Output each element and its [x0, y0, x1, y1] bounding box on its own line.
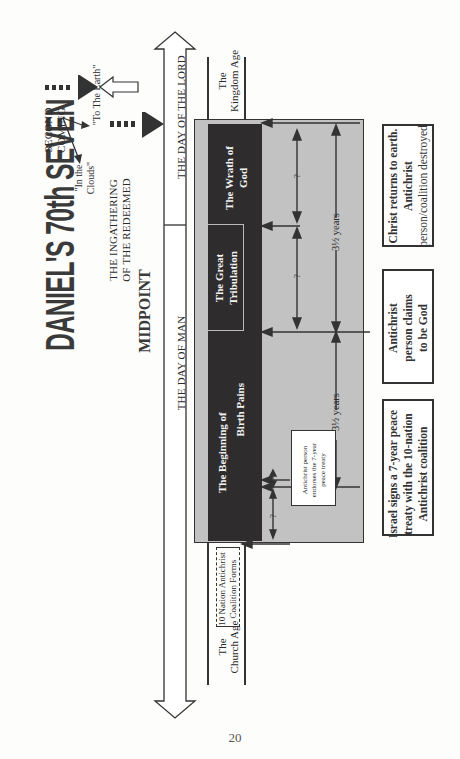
- ingathering-line2: OF THE REDEEMED: [120, 178, 133, 282]
- duration-second-half: 3½ years: [329, 202, 343, 262]
- israel-line1: Israel signs a 7-year peace: [386, 410, 401, 538]
- endorses-line2: endorses the 7-year: [310, 443, 319, 497]
- israel-signs-text: Israel signs a 7-year peace treaty with …: [384, 407, 432, 541]
- timeline-arrows-icon: [230, 110, 370, 670]
- endorses-line3: peace treaty: [319, 453, 328, 487]
- in-the-clouds-label: "In the Clouds": [72, 153, 98, 203]
- ingathering-label: THE INGATHERING OF THE REDEEMED: [105, 165, 135, 295]
- in-the-clouds-line2: Clouds": [85, 162, 97, 194]
- page-number: 20: [220, 730, 250, 746]
- kingdom-age-line1: The: [216, 72, 228, 89]
- unknown-duration-trib: ?: [291, 269, 303, 283]
- second-coming-line1: SECOND: [42, 107, 55, 152]
- christ-returns-text: Christ returns to earth. Antichrist pers…: [385, 125, 431, 247]
- unknown-duration-start: ?: [267, 475, 279, 489]
- israel-line3: Antichrist coalition: [416, 427, 431, 522]
- in-the-clouds-line1: "In the: [73, 164, 85, 191]
- ingathering-line1: THE INGATHERING: [107, 179, 120, 281]
- day-of-man-label: THE DAY OF MAN: [174, 308, 188, 418]
- kingdom-age-label: The Kingdom Age: [213, 41, 243, 121]
- christ-line2: Antichrist: [401, 161, 416, 211]
- kingdom-age-line2: Kingdom Age: [228, 50, 240, 112]
- unknown-duration-wrath: ?: [291, 169, 303, 183]
- claims-line3: to be God: [416, 304, 431, 352]
- to-the-earth-label: "To The Earth": [90, 50, 104, 140]
- endorses-line1: Antichrist person: [301, 446, 310, 494]
- israel-line2: treaty with the 10-nation: [401, 413, 416, 535]
- christ-line3: person/coalition destroyed: [416, 125, 431, 247]
- christ-line1: Christ returns to earth.: [386, 129, 401, 244]
- endorses-treaty-text: Antichrist person endorses the 7-year pe…: [299, 432, 329, 508]
- claims-to-be-god-text: Antichrist person claims to be God: [385, 272, 431, 384]
- day-of-lord-label: THE DAY OF THE LORD: [174, 52, 188, 182]
- unknown-duration-coalition: ?: [267, 509, 279, 523]
- great-trib-line1: The Great: [212, 254, 226, 302]
- birth-pains-line1: The Beginning of: [215, 412, 229, 493]
- coalition-line1: 10 Nation Antichrist: [217, 552, 228, 626]
- church-age-line1: The: [216, 638, 228, 655]
- claims-line2: person claims: [401, 294, 416, 361]
- claims-line1: Antichrist: [386, 303, 401, 353]
